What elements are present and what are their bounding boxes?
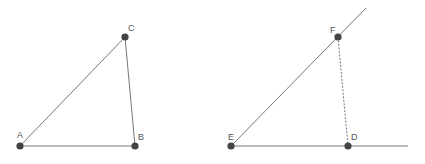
point-c[interactable] <box>121 33 128 40</box>
geometry-diagram: A B C E D F <box>0 0 425 164</box>
label-f: F <box>330 25 336 35</box>
label-c: C <box>128 23 135 33</box>
point-e[interactable] <box>227 142 234 149</box>
construction-def: E D F <box>227 8 408 150</box>
point-b[interactable] <box>131 142 138 149</box>
label-e: E <box>228 132 234 142</box>
label-a: A <box>17 130 23 140</box>
segment-ac <box>20 37 125 146</box>
segment-fd-dashed <box>338 37 348 146</box>
triangle-abc: A B C <box>16 23 144 150</box>
label-d: D <box>351 132 358 142</box>
label-b: B <box>138 132 144 142</box>
segment-bc <box>125 37 135 146</box>
point-a[interactable] <box>16 142 23 149</box>
point-d[interactable] <box>344 142 351 149</box>
